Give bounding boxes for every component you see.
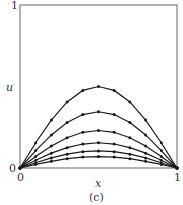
data-point-marker [50, 145, 53, 148]
x-tick-1: 1 [174, 172, 181, 183]
series-line [20, 157, 177, 168]
data-point-marker [144, 160, 147, 163]
data-point-marker [50, 160, 53, 163]
data-point-marker [97, 85, 100, 88]
data-point-marker [66, 100, 69, 103]
data-point-marker [160, 155, 163, 158]
data-point-marker [113, 131, 116, 134]
data-point-marker [160, 163, 163, 166]
data-point-marker [19, 167, 22, 170]
y-axis-label: u [6, 82, 13, 93]
data-point-marker [81, 156, 84, 159]
data-point-marker [113, 89, 116, 92]
data-point-marker [97, 129, 100, 132]
data-point-marker [66, 153, 69, 156]
data-point-marker [81, 131, 84, 134]
figure-caption: (c) [89, 192, 104, 203]
data-point-marker [144, 133, 147, 136]
data-point-marker [66, 157, 69, 160]
data-point-marker [50, 152, 53, 155]
series-layer [19, 85, 179, 170]
data-point-marker [144, 156, 147, 159]
data-point-marker [128, 146, 131, 149]
data-point-marker [176, 167, 179, 170]
data-point-marker [97, 141, 100, 144]
data-point-marker [81, 89, 84, 92]
data-point-marker [144, 119, 147, 122]
data-point-marker [113, 150, 116, 153]
data-point-marker [128, 136, 131, 139]
data-point-marker [34, 155, 37, 158]
data-point-marker [81, 113, 84, 116]
data-point-marker [66, 121, 69, 124]
data-point-marker [128, 153, 131, 156]
data-point-marker [66, 136, 69, 139]
series-line [20, 112, 177, 168]
series-line [20, 151, 177, 168]
data-point-marker [113, 156, 116, 159]
data-point-marker [144, 145, 147, 148]
data-point-marker [128, 157, 131, 160]
x-axis-label: x [95, 178, 101, 189]
data-point-marker [160, 141, 163, 144]
data-point-marker [144, 152, 147, 155]
data-point-marker [160, 159, 163, 162]
data-point-marker [97, 149, 100, 152]
data-point-marker [97, 155, 100, 158]
x-tick-0: 0 [17, 172, 24, 183]
data-point-marker [113, 113, 116, 116]
data-point-marker [34, 163, 37, 166]
data-point-marker [128, 100, 131, 103]
y-tick-0: 0 [9, 163, 16, 174]
data-point-marker [50, 119, 53, 122]
data-point-marker [97, 110, 100, 113]
data-point-marker [50, 133, 53, 136]
data-point-marker [34, 159, 37, 162]
data-point-marker [34, 141, 37, 144]
data-point-marker [34, 149, 37, 152]
y-tick-1: 1 [11, 0, 18, 11]
data-point-marker [113, 143, 116, 146]
data-point-marker [81, 150, 84, 153]
data-point-marker [128, 121, 131, 124]
chart-canvas [0, 0, 183, 205]
data-point-marker [160, 149, 163, 152]
data-point-marker [50, 156, 53, 159]
data-point-marker [81, 143, 84, 146]
data-point-marker [66, 146, 69, 149]
